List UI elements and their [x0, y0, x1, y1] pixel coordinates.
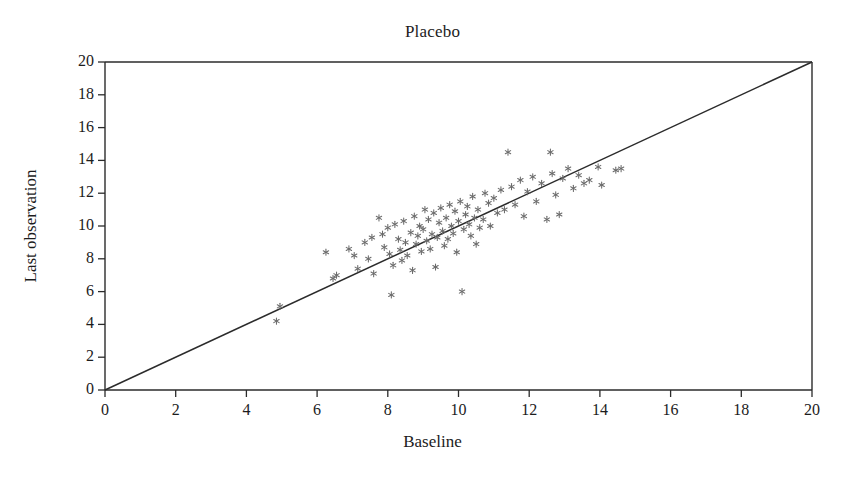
data-point [505, 149, 510, 155]
data-point [410, 267, 415, 273]
data-point [390, 262, 395, 268]
data-point [451, 230, 456, 236]
data-point [442, 243, 447, 249]
data-point [530, 174, 535, 180]
data-point [387, 251, 392, 257]
data-point [419, 248, 424, 254]
data-point [465, 203, 470, 209]
chart-figure: Placebo Last observation Baseline 024681… [0, 0, 865, 480]
data-point [482, 190, 487, 196]
data-point [481, 216, 486, 222]
data-point [443, 215, 448, 221]
data-point [401, 218, 406, 224]
data-point [509, 184, 514, 190]
data-point [565, 166, 570, 172]
x-tick-label: 6 [300, 401, 334, 419]
y-tick-label: 18 [60, 85, 94, 103]
data-point [456, 218, 461, 224]
data-point [426, 216, 431, 222]
data-point [438, 205, 443, 211]
data-point [428, 246, 433, 252]
data-point [498, 187, 503, 193]
data-point [405, 252, 410, 258]
data-point [549, 170, 554, 176]
data-point [447, 202, 452, 208]
data-point [571, 185, 576, 191]
y-tick-label: 6 [60, 282, 94, 300]
x-tick-label: 12 [512, 401, 546, 419]
data-point [599, 182, 604, 188]
data-point [392, 221, 397, 227]
x-tick-label: 10 [442, 401, 476, 419]
data-point [403, 239, 408, 245]
data-point [486, 200, 491, 206]
data-point [346, 246, 351, 252]
data-point [618, 166, 623, 172]
y-tick-label: 14 [60, 150, 94, 168]
data-point [352, 252, 357, 258]
data-point [274, 318, 279, 324]
x-tick-label: 16 [654, 401, 688, 419]
data-point [452, 208, 457, 214]
data-point [399, 257, 404, 263]
data-point [553, 192, 558, 198]
data-point [613, 167, 618, 173]
y-tick-label: 8 [60, 249, 94, 267]
data-point [458, 198, 463, 204]
data-point [534, 198, 539, 204]
y-tick-label: 20 [60, 52, 94, 70]
data-point [454, 249, 459, 255]
y-tick-label: 12 [60, 183, 94, 201]
data-points [274, 149, 624, 324]
data-point [502, 207, 507, 213]
data-point [470, 193, 475, 199]
data-point [362, 239, 367, 245]
y-tick-label: 2 [60, 347, 94, 365]
data-point [587, 177, 592, 183]
data-point [422, 207, 427, 213]
data-point [433, 264, 438, 270]
identity-reference-line [105, 62, 812, 390]
data-point [366, 256, 371, 262]
x-tick-label: 4 [229, 401, 263, 419]
data-point [382, 244, 387, 250]
data-point [459, 289, 464, 295]
data-point [424, 238, 429, 244]
data-point [415, 233, 420, 239]
data-point [445, 236, 450, 242]
data-point [463, 211, 468, 217]
data-point [436, 220, 441, 226]
data-point [495, 210, 500, 216]
data-point [461, 226, 466, 232]
y-tick-label: 0 [60, 380, 94, 398]
y-tick-label: 16 [60, 118, 94, 136]
data-point [581, 180, 586, 186]
data-point [389, 292, 394, 298]
x-tick-label: 20 [795, 401, 829, 419]
data-point [548, 149, 553, 155]
data-point [491, 195, 496, 201]
x-axis-title: Baseline [0, 432, 865, 452]
data-point [408, 229, 413, 235]
data-point [557, 211, 562, 217]
data-point [512, 202, 517, 208]
x-tick-label: 14 [583, 401, 617, 419]
data-point [431, 210, 436, 216]
data-point [429, 231, 434, 237]
y-tick-label: 10 [60, 216, 94, 234]
data-point [396, 236, 401, 242]
data-point [521, 213, 526, 219]
x-tick-label: 8 [371, 401, 405, 419]
data-point [576, 172, 581, 178]
data-point [475, 207, 480, 213]
data-point [595, 164, 600, 170]
data-point [539, 180, 544, 186]
y-tick-label: 4 [60, 314, 94, 332]
y-axis-title-wrapper: Last observation [18, 62, 44, 390]
data-point [477, 225, 482, 231]
data-point [544, 216, 549, 222]
data-point [473, 241, 478, 247]
data-point [468, 233, 473, 239]
x-tick-label: 2 [159, 401, 193, 419]
data-point [323, 249, 328, 255]
